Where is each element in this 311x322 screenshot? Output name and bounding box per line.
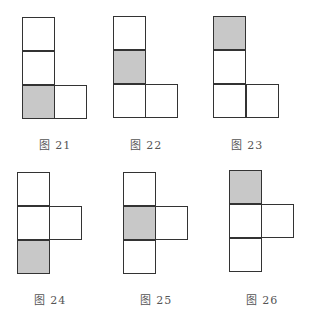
- square-col-row2: [22, 51, 55, 85]
- figure-label: 图 21: [39, 136, 72, 152]
- square-col-row2: [213, 50, 246, 84]
- figure-label: 图 25: [140, 291, 173, 307]
- square-arm-row2: [155, 206, 188, 240]
- square-arm-row2: [49, 206, 82, 240]
- square-col-row1: [123, 172, 156, 206]
- figure-label: 图 23: [231, 136, 264, 152]
- square-shaded-row2: [123, 206, 156, 240]
- square-col-row2: [229, 204, 262, 238]
- square-shaded-row3: [22, 85, 55, 119]
- square-arm-row3: [246, 84, 279, 118]
- figure-label: 图 26: [246, 291, 279, 307]
- square-shaded-row3: [17, 240, 50, 274]
- square-arm-row2: [261, 204, 294, 238]
- square-col-row1: [22, 17, 55, 51]
- square-col-row1: [113, 16, 146, 50]
- square-col-row3: [229, 238, 262, 272]
- figure-label: 图 24: [34, 291, 67, 307]
- square-arm-row3: [145, 84, 178, 118]
- square-shaded-row1: [229, 170, 262, 204]
- square-col-row1: [17, 172, 50, 206]
- square-col-row3: [113, 84, 146, 118]
- figure-label: 图 22: [130, 136, 163, 152]
- square-col-row2: [17, 206, 50, 240]
- square-shaded-row1: [213, 16, 246, 50]
- square-shaded-row2: [113, 50, 146, 84]
- square-arm-row3: [54, 85, 87, 119]
- square-col-row3: [123, 240, 156, 274]
- square-col-row3: [213, 84, 246, 118]
